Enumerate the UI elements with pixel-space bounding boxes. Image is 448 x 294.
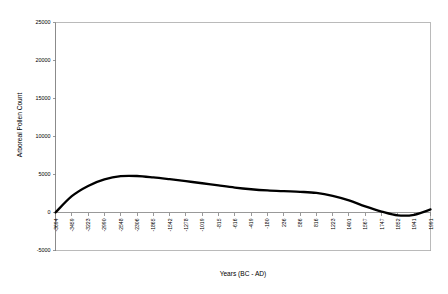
x-axis-tick-label: -1542 — [167, 218, 173, 231]
x-axis-title: Years (BC - AD) — [220, 270, 267, 278]
pollen-count-line-chart: -50000500010000150002000025000 -3694-345… — [0, 0, 448, 294]
y-axis-title: Arboreal Pollen Count — [16, 93, 23, 158]
x-axis-tick-label: 1941 — [411, 218, 417, 229]
x-axis-tick-label: 1747 — [379, 218, 385, 229]
y-axis-tick-label: 25000 — [36, 19, 51, 25]
x-axis-tick-label: -3223 — [85, 218, 91, 231]
x-axis-tick-label: 1852 — [395, 218, 401, 229]
x-axis-tick-label: -815 — [216, 218, 222, 228]
x-axis-tick-label: -180 — [264, 218, 270, 228]
x-axis-tick-label: -1019 — [199, 218, 205, 231]
x-axis-tick-label: 1567 — [362, 218, 368, 229]
x-axis-tick-label: -3694 — [53, 218, 59, 231]
x-axis-tick-label: -1278 — [183, 218, 189, 231]
chart-container: -50000500010000150002000025000 -3694-345… — [0, 0, 448, 294]
x-axis-tick-label: -2548 — [118, 218, 124, 231]
x-axis-tick-label: 236 — [281, 218, 287, 227]
y-axis-tick-label: 15000 — [36, 95, 51, 101]
x-axis-tick-label: -616 — [232, 218, 238, 228]
x-axis-tick-label: 1991 — [428, 218, 434, 229]
y-axis-tick-label: 5000 — [39, 171, 51, 177]
y-axis-tick-label: 0 — [48, 209, 51, 215]
x-axis-tick-label: 1401 — [346, 218, 352, 229]
y-axis-tick-label: 20000 — [36, 57, 51, 63]
y-axis-tick-label: -5000 — [37, 247, 51, 253]
x-axis-tick-label: 1223 — [330, 218, 336, 229]
x-axis-tick-label: 586 — [297, 218, 303, 227]
x-axis-tick-label: -2990 — [101, 218, 107, 231]
x-axis-tick-label: 816 — [313, 218, 319, 227]
x-axis-tick-label: -419 — [248, 218, 254, 228]
x-axis-tick-label: -2306 — [134, 218, 140, 231]
x-axis-tick-label: -3459 — [69, 218, 75, 231]
chart-background — [0, 0, 448, 294]
y-axis-tick-label: 10000 — [36, 133, 51, 139]
x-axis-tick-label: -1865 — [150, 218, 156, 231]
